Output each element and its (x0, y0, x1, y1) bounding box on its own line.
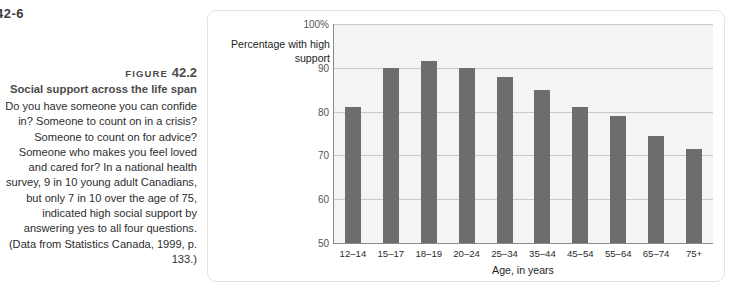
bar-slot: 35–44 (524, 24, 562, 243)
bar-slot: 55–64 (599, 24, 637, 243)
x-tick-label: 35–44 (529, 248, 556, 259)
y-tick-label: 80 (318, 106, 329, 117)
x-tick-label: 75+ (686, 248, 702, 259)
x-axis-title: Age, in years (333, 264, 713, 276)
x-tick-label: 18–19 (415, 248, 442, 259)
y-tick-label: 70 (318, 150, 329, 161)
bar (421, 61, 437, 243)
figure-caption-block: FIGURE 42.2 Social support across the li… (0, 66, 197, 267)
y-axis-title: Percentage with high support (212, 38, 330, 65)
y-tick-label: 60 (318, 194, 329, 205)
bar-slot: 15–17 (372, 24, 410, 243)
bar-slot: 20–24 (448, 24, 486, 243)
bars-group: 12–1415–1718–1920–2425–3435–4445–5455–64… (334, 24, 713, 243)
figure-title: Social support across the life span (0, 82, 197, 97)
figure-word: FIGURE (125, 68, 168, 79)
bar-slot: 45–54 (561, 24, 599, 243)
x-tick-label: 65–74 (643, 248, 670, 259)
bar (497, 77, 513, 243)
bar (383, 68, 399, 243)
x-tick-label: 45–54 (567, 248, 594, 259)
bar (572, 107, 588, 243)
y-tick-label: 100% (303, 19, 329, 30)
bar-slot: 18–19 (410, 24, 448, 243)
figure-number: 42.2 (172, 65, 197, 80)
bar-slot: 75+ (675, 24, 713, 243)
y-tick-label: 50 (318, 238, 329, 249)
bar-slot: 25–34 (486, 24, 524, 243)
bar (459, 68, 475, 243)
running-head: 42-6 (0, 6, 24, 21)
x-tick-label: 25–34 (491, 248, 518, 259)
bar (686, 149, 702, 243)
x-tick-label: 20–24 (453, 248, 480, 259)
y-tick-label: 90 (318, 62, 329, 73)
x-tick-label: 15–17 (377, 248, 404, 259)
bar (345, 107, 361, 243)
x-tick-label: 12–14 (340, 248, 367, 259)
bar-slot: 12–14 (334, 24, 372, 243)
figure-label: FIGURE 42.2 (0, 66, 197, 81)
x-tick-label: 55–64 (605, 248, 632, 259)
chart-panel: Percentage with high support 100%9080706… (207, 10, 725, 282)
bar-slot: 65–74 (637, 24, 675, 243)
bar (610, 116, 626, 243)
plot-area: 100%9080706050 12–1415–1718–1920–2425–34… (333, 24, 713, 244)
bar (648, 136, 664, 243)
figure-caption-text: Do you have someone you can confide in? … (0, 99, 197, 267)
bar (534, 90, 550, 243)
